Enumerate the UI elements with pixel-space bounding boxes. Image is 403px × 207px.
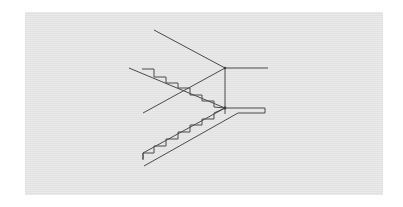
staircase-diagram [0,0,403,207]
top-diagonal-line [154,30,268,68]
long-left-diagonal-line [129,68,225,108]
landing-slab [144,108,265,166]
lower-flight-stringer [143,108,225,153]
landing-node [224,107,227,110]
top-node [224,67,226,69]
construction-lines [129,30,268,114]
lower-flight-steps [143,108,225,159]
crossing-diagonal-line [143,68,225,113]
